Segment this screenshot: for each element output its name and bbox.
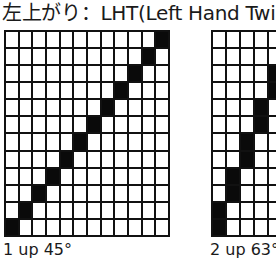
weave-cell-empty [269, 117, 276, 132]
weave-cell-empty [88, 134, 100, 149]
weave-cell-filled [6, 220, 18, 235]
weave-cell-empty [88, 220, 100, 235]
weave-cell-empty [213, 32, 225, 47]
weave-cell-empty [115, 169, 127, 184]
weave-cell-empty [102, 134, 114, 149]
weave-cell-empty [74, 186, 86, 201]
weave-cell-empty [143, 117, 155, 132]
weave-cell-empty [115, 152, 127, 167]
weave-cell-filled [241, 134, 253, 149]
weave-cell-empty [227, 100, 239, 115]
weave-cell-empty [115, 203, 127, 218]
weave-cell-empty [47, 32, 59, 47]
weave-cell-empty [269, 152, 276, 167]
weave-cell-filled [74, 134, 86, 149]
weave-cell-empty [74, 203, 86, 218]
weave-cell-empty [102, 32, 114, 47]
weave-cell-filled [47, 169, 59, 184]
weave-cell-filled [61, 152, 73, 167]
weave-cell-empty [102, 152, 114, 167]
weave-cell-empty [143, 220, 155, 235]
weave-cell-empty [129, 134, 141, 149]
weave-cell-empty [143, 169, 155, 184]
weave-cell-empty [33, 134, 45, 149]
weave-cell-filled [227, 169, 239, 184]
weave-cell-empty [33, 203, 45, 218]
weave-cell-empty [88, 66, 100, 81]
weave-cell-empty [102, 169, 114, 184]
weave-cell-empty [269, 100, 276, 115]
weave-cell-empty [143, 152, 155, 167]
weave-cell-empty [241, 32, 253, 47]
weave-cell-empty [115, 220, 127, 235]
weave-cell-empty [47, 152, 59, 167]
weave-cell-empty [227, 220, 239, 235]
weave-cell-empty [213, 100, 225, 115]
weave-cell-empty [61, 49, 73, 64]
weave-cell-empty [74, 49, 86, 64]
weave-cell-empty [88, 83, 100, 98]
weave-cell-empty [102, 203, 114, 218]
weave-cell-empty [102, 117, 114, 132]
weave-cell-filled [102, 100, 114, 115]
weave-cell-empty [241, 117, 253, 132]
weave-cell-empty [255, 186, 267, 201]
weave-cell-empty [115, 117, 127, 132]
weave-cell-empty [102, 186, 114, 201]
weave-cell-empty [61, 83, 73, 98]
weave-cell-empty [61, 32, 73, 47]
weave-cell-empty [115, 134, 127, 149]
weave-cell-empty [213, 152, 225, 167]
weave-cell-empty [143, 203, 155, 218]
weave-cell-empty [74, 83, 86, 98]
weave-cell-empty [143, 83, 155, 98]
weave-cell-empty [269, 203, 276, 218]
weave-cell-empty [20, 83, 32, 98]
weave-cell-empty [241, 83, 253, 98]
weave-cell-empty [269, 186, 276, 201]
weave-cell-empty [213, 66, 225, 81]
weave-cell-empty [47, 203, 59, 218]
weave-cell-empty [20, 117, 32, 132]
weave-cell-empty [129, 169, 141, 184]
weave-cell-empty [213, 49, 225, 64]
weave-cell-empty [6, 134, 18, 149]
weave-cell-empty [20, 134, 32, 149]
weave-cell-empty [20, 66, 32, 81]
weave-cell-empty [156, 117, 168, 132]
weave-cell-empty [102, 220, 114, 235]
weave-cell-empty [6, 32, 18, 47]
weave-cell-empty [47, 66, 59, 81]
weave-cell-filled [156, 32, 168, 47]
weave-cell-empty [255, 32, 267, 47]
weave-cell-empty [241, 49, 253, 64]
weave-cell-empty [143, 100, 155, 115]
weave-cell-empty [143, 32, 155, 47]
weave-cell-empty [115, 66, 127, 81]
weave-cell-empty [102, 83, 114, 98]
weave-cell-empty [61, 186, 73, 201]
weave-cell-empty [129, 203, 141, 218]
weave-cell-empty [143, 134, 155, 149]
weave-cell-empty [47, 220, 59, 235]
weave-cell-empty [33, 152, 45, 167]
weave-cell-empty [227, 117, 239, 132]
weave-cell-empty [88, 152, 100, 167]
weave-cell-empty [33, 49, 45, 64]
weave-cell-empty [156, 100, 168, 115]
weave-cell-empty [156, 134, 168, 149]
weave-cell-empty [255, 220, 267, 235]
weave-cell-filled [129, 66, 141, 81]
weave-cell-empty [74, 117, 86, 132]
weave-cell-empty [20, 49, 32, 64]
weave-cell-empty [156, 203, 168, 218]
weave-cell-empty [47, 117, 59, 132]
weave-cell-filled [255, 117, 267, 132]
weave-cell-empty [61, 117, 73, 132]
weave-cell-empty [88, 186, 100, 201]
weave-cell-empty [61, 134, 73, 149]
weave-cell-empty [6, 169, 18, 184]
weave-cell-empty [129, 220, 141, 235]
weave-cell-empty [129, 49, 141, 64]
weave-cell-empty [241, 169, 253, 184]
